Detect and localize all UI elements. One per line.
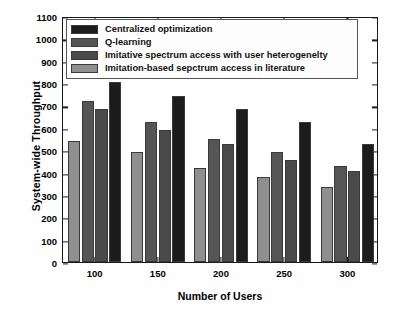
legend-swatch-icon — [71, 25, 98, 34]
bar-300-4 — [362, 144, 374, 262]
y-axis-tick-label: 400 — [41, 170, 63, 180]
bar-100-4 — [109, 82, 121, 262]
x-axis-title: Number of Users — [62, 290, 378, 302]
bar-150-4 — [172, 96, 184, 262]
y-axis-tick-label: 300 — [41, 192, 63, 202]
legend-label: Centralized optimization — [105, 25, 212, 34]
y-axis-tick-label: 1000 — [36, 36, 63, 46]
bar-250-4 — [299, 122, 311, 262]
y-axis-tick-label: 0 — [52, 259, 63, 269]
y-axis-tick-label: 900 — [41, 58, 63, 68]
y-axis-tick-mark — [372, 62, 377, 63]
bar-200-2 — [208, 139, 220, 262]
chart-legend: Centralized optimizationQ-learningImitat… — [66, 19, 358, 79]
bar-chart-figure: System-wide Throughput 01002003004005006… — [0, 0, 403, 313]
bar-200-1 — [194, 168, 206, 262]
bar-300-2 — [334, 166, 346, 262]
legend-item: Imitation-based sepctrum access in liter… — [71, 62, 353, 75]
y-axis-tick-mark — [372, 17, 377, 18]
y-axis-tick-mark — [63, 263, 68, 264]
bar-300-3 — [348, 171, 360, 262]
bar-250-3 — [285, 160, 297, 262]
bar-300-1 — [321, 187, 333, 262]
legend-item: Centralized optimization — [71, 23, 353, 36]
legend-swatch-icon — [71, 38, 98, 47]
legend-label: Imitative spectrum access with user hete… — [105, 51, 328, 60]
y-axis-tick-mark — [372, 40, 377, 41]
x-axis-tick-label: 250 — [276, 269, 292, 279]
y-axis-tick-mark — [372, 129, 377, 130]
y-axis-tick-label: 600 — [41, 125, 63, 135]
bar-200-4 — [236, 109, 248, 262]
bar-250-2 — [271, 152, 283, 262]
legend-swatch-icon — [71, 51, 98, 60]
x-axis-tick-label: 300 — [339, 269, 355, 279]
y-axis-tick-mark — [372, 263, 377, 264]
x-axis-tick-label: 150 — [150, 269, 166, 279]
y-axis-tick-label: 100 — [41, 237, 63, 247]
y-axis-tick-mark — [63, 107, 68, 108]
y-axis-tick-label: 500 — [41, 147, 63, 157]
x-axis-tick-label: 200 — [213, 269, 229, 279]
y-axis-tick-label: 1100 — [36, 13, 63, 23]
legend-swatch-icon — [71, 64, 98, 73]
bar-100-1 — [68, 141, 80, 262]
y-axis-tick-mark — [372, 107, 377, 108]
legend-item: Q-learning — [71, 36, 353, 49]
y-axis-tick-mark — [63, 129, 68, 130]
y-axis-tick-mark — [63, 84, 68, 85]
legend-label: Imitation-based sepctrum access in liter… — [105, 64, 305, 73]
bar-100-3 — [95, 109, 107, 262]
x-axis-tick-label: 100 — [87, 269, 103, 279]
bar-150-1 — [131, 152, 143, 262]
bar-100-2 — [82, 101, 94, 262]
y-axis-tick-label: 800 — [41, 80, 63, 90]
y-axis-tick-label: 700 — [41, 103, 63, 113]
bar-200-3 — [222, 144, 234, 262]
legend-label: Q-learning — [105, 38, 152, 47]
bar-250-1 — [257, 177, 269, 262]
bar-150-2 — [145, 122, 157, 262]
y-axis-tick-mark — [372, 84, 377, 85]
y-axis-tick-label: 200 — [41, 215, 63, 225]
bar-150-3 — [159, 130, 171, 262]
legend-item: Imitative spectrum access with user hete… — [71, 49, 353, 62]
